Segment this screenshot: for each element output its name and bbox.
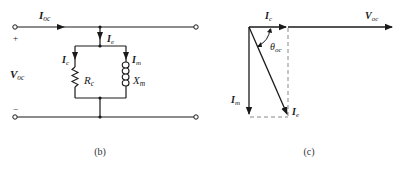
label-i-c-phasor: Ic [264, 10, 273, 23]
label-i-oc: Ioc [38, 9, 51, 23]
terminal-top-left [13, 25, 17, 29]
terminal-top-right [194, 25, 198, 29]
label-plus: + [13, 33, 18, 43]
theta-arc-arrow-top-icon [267, 28, 272, 33]
caption-b: (b) [94, 146, 106, 158]
phasor-diagram: Ic Voc θoc Im Ie (c) [230, 10, 392, 158]
label-theta-oc: θoc [270, 41, 282, 54]
label-v-oc: Voc [10, 68, 25, 82]
diagram-canvas: Ioc Ie Ic Im Rc Xm Voc + − (b) Ic Voc θo… [0, 0, 406, 171]
label-v-oc-phasor: Voc [365, 10, 379, 23]
label-r-c: Rc [83, 74, 95, 88]
i-c-arrow-icon [72, 52, 78, 60]
label-minus: − [13, 104, 18, 114]
inductor-xm-icon [122, 62, 129, 86]
label-i-e-phasor: Ie [291, 106, 299, 119]
label-i-m: Im [131, 54, 141, 67]
label-i-e: Ie [106, 33, 114, 46]
label-i-m-phasor: Im [230, 94, 240, 107]
caption-c: (c) [303, 146, 314, 158]
label-i-c: Ic [61, 54, 70, 67]
resistor-rc-icon [72, 67, 78, 87]
equivalent-circuit: Ioc Ie Ic Im Rc Xm Voc + − (b) [10, 9, 198, 158]
i-m-arrow-icon [123, 52, 129, 60]
phasor-i-e [249, 27, 287, 114]
theta-arc-arrow-bottom-icon [257, 42, 262, 47]
label-x-m: Xm [132, 74, 146, 88]
i-oc-arrow-icon [57, 24, 65, 30]
terminal-bottom-left [13, 115, 17, 119]
terminal-bottom-right [194, 115, 198, 119]
i-e-arrow-icon [97, 32, 103, 40]
